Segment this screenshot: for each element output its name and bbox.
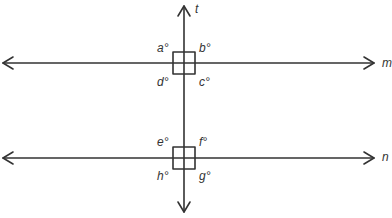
line-m — [3, 57, 374, 69]
label-n: n — [382, 151, 389, 163]
line-t — [178, 6, 190, 212]
angle-g: g° — [199, 170, 210, 182]
angle-d: d° — [157, 76, 168, 88]
angle-h: h° — [157, 170, 168, 182]
label-m: m — [382, 57, 392, 69]
line-n — [3, 152, 374, 164]
angle-b: b° — [199, 42, 210, 54]
angle-a: a° — [157, 42, 168, 54]
angle-e: e° — [157, 136, 168, 148]
angle-f: f° — [199, 136, 207, 148]
angle-c: c° — [199, 76, 210, 88]
label-t: t — [195, 3, 198, 15]
